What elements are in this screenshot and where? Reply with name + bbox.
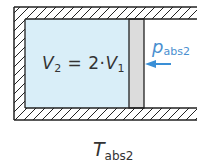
pressure-label: pabs2 bbox=[152, 36, 190, 58]
volume-equation: V2 = 2·V1 bbox=[42, 53, 125, 75]
temperature-label: Tabs2 bbox=[93, 138, 133, 163]
pressure-arrow-icon bbox=[145, 60, 171, 68]
top-wall bbox=[14, 7, 197, 19]
bottom-wall bbox=[14, 108, 197, 120]
left-wall bbox=[14, 19, 25, 108]
piston bbox=[129, 19, 144, 108]
